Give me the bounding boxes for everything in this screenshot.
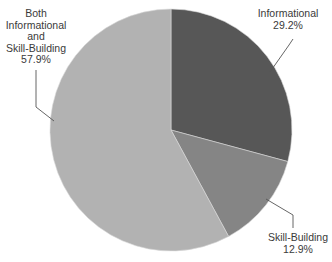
label-informational: Informational 29.2%: [248, 8, 328, 31]
label-skill-building: Skill-Building 12.9%: [262, 232, 332, 255]
label-informational-pct: 29.2%: [248, 20, 328, 32]
leader-line-informational: [270, 39, 293, 72]
label-both-line1: Both: [0, 8, 72, 20]
label-both: Both Informational and Skill-Building 57…: [0, 8, 72, 66]
label-skill-building-name: Skill-Building: [262, 232, 332, 244]
label-skill-building-pct: 12.9%: [262, 244, 332, 256]
label-both-pct: 57.9%: [0, 54, 72, 66]
label-informational-name: Informational: [248, 8, 328, 20]
leader-line-skill-building: [266, 199, 293, 228]
